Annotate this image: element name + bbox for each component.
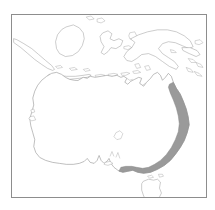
map-canvas — [12, 15, 206, 197]
landmass-lesser-sunda — [56, 65, 141, 77]
landmass-sulawesi — [100, 31, 123, 55]
map-frame — [11, 14, 207, 198]
landmass-sumatra — [14, 39, 55, 71]
landmass-philippines-fringe — [86, 16, 105, 23]
distribution-map-figure — [0, 0, 215, 210]
landmass-new-britain — [182, 48, 200, 57]
landmass-borneo — [56, 25, 85, 57]
landmass-tasmania — [142, 174, 164, 197]
landmass-aru-islands — [135, 63, 151, 70]
